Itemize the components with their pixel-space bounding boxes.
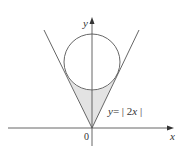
figure: y x 0 y= | 2x | <box>0 0 181 155</box>
diagram-canvas: y x 0 y= | 2x | <box>0 0 181 155</box>
curve-label: y= | 2x | <box>107 105 142 117</box>
y-axis-arrow-icon <box>90 17 95 24</box>
x-axis-label: x <box>169 130 175 142</box>
y-axis <box>90 17 95 146</box>
origin-label: 0 <box>84 131 89 142</box>
y-axis-label: y <box>82 17 88 29</box>
